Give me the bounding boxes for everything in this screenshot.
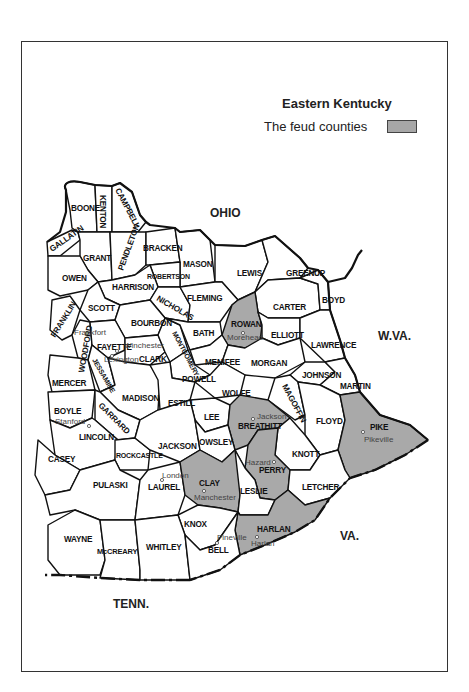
label-casey: CASEY [48, 455, 76, 464]
town-hazard: Hazard [245, 458, 271, 467]
label-laurel: LAUREL [148, 483, 180, 492]
label-tenn: TENN. [113, 597, 149, 611]
label-kenton: KENTON [98, 195, 107, 229]
label-bath: BATH [193, 329, 215, 338]
label-menifee: MENIFEE [205, 358, 241, 367]
label-lincoln: LINCOLN [79, 433, 114, 442]
label-lee: LEE [204, 413, 220, 422]
label-madison: MADISON [122, 394, 160, 403]
label-ohio: OHIO [210, 206, 241, 220]
label-owen: OWEN [62, 274, 87, 283]
label-martin: MARTIN [340, 382, 371, 391]
label-leslie: LESLIE [240, 487, 268, 496]
label-knott: KNOTT [292, 450, 319, 459]
label-lawrence: LAWRENCE [311, 341, 357, 350]
label-floyd: FLOYD [316, 417, 343, 426]
label-scott: SCOTT [88, 304, 115, 313]
town-harlan: Harlan [251, 539, 275, 548]
label-pike: PIKE [370, 423, 389, 432]
town-jackson: Jackson [257, 412, 286, 421]
label-rockcastle: ROCKCASTLE [116, 452, 163, 459]
label-pulaski: PULASKI [93, 481, 128, 490]
kentucky-map: OHIO W.VA. VA. TENN. BOONE KENTON CAMPBE… [0, 0, 469, 692]
label-robertson: ROBERTSON [147, 273, 190, 280]
label-johnson: JOHNSON [302, 371, 341, 380]
label-carter: CARTER [273, 303, 306, 312]
label-knox: KNOX [184, 520, 208, 529]
label-fleming: FLEMING [187, 294, 222, 303]
label-wva: W.VA. [378, 329, 411, 343]
label-elliott: ELLIOTT [271, 331, 304, 340]
label-rowan: ROWAN [231, 320, 262, 329]
label-mccreary: McCREARY [97, 547, 137, 556]
label-bourbon: BOURBON [131, 319, 172, 328]
label-estill: ESTILL [168, 399, 195, 408]
town-marker-stanford [87, 424, 90, 427]
label-morgan: MORGAN [251, 359, 287, 368]
town-london: London [162, 471, 189, 480]
county-shapes [35, 181, 428, 580]
label-owsley: OWSLEY [199, 438, 234, 447]
label-mercer: MERCER [52, 379, 87, 388]
label-letcher: LETCHER [302, 483, 340, 492]
label-breathitt: BREATHITT [238, 422, 282, 431]
label-harlan: HARLAN [257, 525, 291, 534]
label-boone: BOONE [71, 204, 101, 213]
label-powell: POWELL [182, 375, 216, 384]
label-harrison: HARRISON [112, 283, 154, 292]
town-pineville: Pineville [217, 533, 247, 542]
town-manchester: Manchester [194, 493, 236, 502]
town-pikeville: Pikeville [364, 435, 394, 444]
town-lexington: Lexington [104, 355, 139, 364]
label-bell: BELL [208, 546, 229, 555]
town-marker-hazard [272, 460, 275, 463]
label-grant: GRANT [83, 254, 111, 263]
label-clay: CLAY [199, 479, 220, 488]
town-morehead: Morehead [227, 333, 263, 342]
town-marker-pikeville [361, 430, 364, 433]
town-stanford: Stanford [55, 417, 85, 426]
label-boyd: BOYD [322, 296, 345, 305]
label-jackson: JACKSON [158, 442, 197, 451]
label-perry: PERRY [259, 466, 287, 475]
county-carter [255, 278, 320, 318]
label-clark: CLARK [139, 355, 167, 364]
town-winchester: Winchester [124, 341, 164, 350]
label-wayne: WAYNE [64, 535, 93, 544]
town-marker-winchester [115, 349, 118, 352]
label-whitley: WHITLEY [146, 543, 182, 552]
label-va: VA. [340, 529, 359, 543]
label-lewis: LEWIS [237, 269, 263, 278]
label-wolfe: WOLFE [222, 389, 251, 398]
town-frankfort: Frankfort [74, 328, 107, 337]
label-greenup: GREENUP [286, 269, 326, 278]
town-marker-jackson [251, 417, 254, 420]
label-mason: MASON [183, 260, 213, 269]
label-boyle: BOYLE [54, 407, 82, 416]
label-bracken: BRACKEN [143, 244, 183, 253]
